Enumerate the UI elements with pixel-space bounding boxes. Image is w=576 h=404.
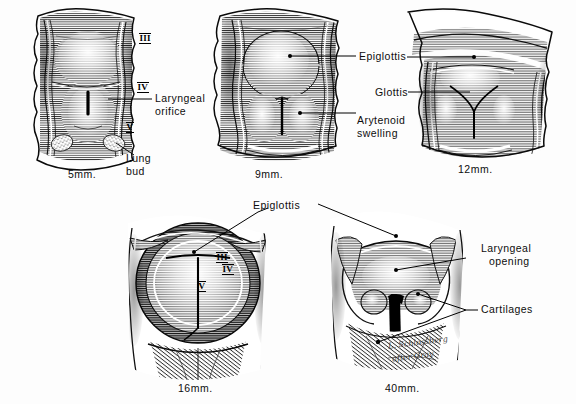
label-epiglottis-bottom: Epiglottis	[253, 199, 300, 212]
arch-numeral-iv-16mm: IV	[222, 264, 234, 275]
label-laryngeal-orifice: Laryngealorifice	[155, 92, 205, 117]
panel-9mm	[214, 9, 356, 162]
caption-9mm: 9mm.	[255, 168, 283, 180]
label-laryngeal-orifice-line1: Laryngeal	[155, 92, 205, 104]
arch-numeral-v-5mm: V	[126, 122, 134, 133]
label-lung-bud-line1: Lung	[126, 152, 151, 164]
label-lung-bud: Lungbud	[126, 152, 151, 177]
label-laryngeal-opening-line1: Laryngeal	[481, 242, 531, 254]
label-laryngeal-opening-line2: opening	[481, 255, 530, 268]
label-laryngeal-orifice-line2: orifice	[155, 105, 186, 117]
caption-12mm: 12mm.	[458, 163, 493, 175]
panel-16mm	[124, 208, 274, 393]
arch-numeral-iii-5mm: III	[139, 33, 151, 44]
caption-5mm: 5mm.	[68, 168, 96, 180]
label-arytenoid-swelling: Arytenoidswelling	[357, 114, 405, 139]
label-arytenoid-line2: swelling	[357, 127, 398, 139]
label-lung-bud-line2: bud	[126, 165, 145, 177]
arch-numeral-iii-16mm: III	[216, 252, 228, 263]
label-laryngeal-opening: Laryngealopening	[481, 242, 531, 267]
label-arytenoid-line1: Arytenoid	[357, 114, 405, 126]
label-glottis: Glottis	[375, 86, 408, 99]
label-epiglottis-top: Epiglottis	[359, 50, 406, 63]
label-cartilages: Cartilages	[481, 303, 533, 316]
arch-numeral-v-16mm: V	[198, 281, 206, 292]
arch-numeral-iv-5mm: IV	[137, 82, 149, 93]
caption-16mm: 16mm.	[178, 382, 213, 394]
caption-40mm: 40mm.	[385, 382, 420, 394]
